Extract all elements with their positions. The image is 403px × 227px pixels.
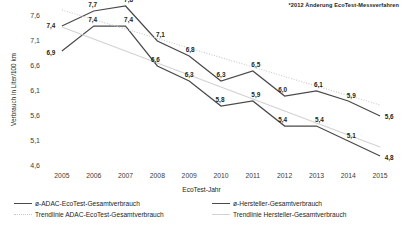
data-label: 5,6	[385, 113, 394, 120]
data-label: 7,1	[156, 31, 165, 38]
chart-legend: ø-ADAC-EcoTest-Gesamtverbrauchø-Herstell…	[0, 198, 403, 226]
chart-container: *2012 Änderung EcoTest-Messverfahren Ver…	[0, 0, 403, 227]
legend-swatch-icon	[14, 203, 32, 204]
data-label: 6,1	[314, 81, 323, 88]
plot-lines	[0, 0, 403, 227]
data-label: 7,7	[88, 1, 97, 8]
data-label: 6,3	[217, 71, 226, 78]
data-label: 5,4	[278, 116, 287, 123]
legend-item-0[interactable]: ø-ADAC-EcoTest-Gesamtverbrauch	[14, 200, 140, 207]
legend-label: Trendlinie Hersteller-Gesamtverbrauch	[233, 211, 346, 218]
series-line-3	[62, 27, 380, 147]
series-line-2	[62, 10, 380, 105]
data-label: 6,6	[151, 56, 160, 63]
legend-swatch-icon	[212, 203, 230, 204]
legend-swatch-icon	[14, 214, 32, 215]
legend-label: ø-ADAC-EcoTest-Gesamtverbrauch	[35, 200, 140, 207]
data-label: 6,9	[46, 49, 55, 56]
data-label: 5,4	[315, 116, 324, 123]
legend-item-1[interactable]: ø-Hersteller-Gesamtverbrauch	[212, 200, 322, 207]
data-label: 7,8	[124, 0, 133, 3]
data-label: 5,1	[347, 132, 356, 139]
data-label: 6,8	[186, 46, 195, 53]
data-label: 7,4	[88, 16, 97, 23]
data-label: 7,4	[124, 16, 133, 23]
data-label: 6,5	[251, 61, 260, 68]
legend-swatch-icon	[212, 214, 230, 215]
legend-item-3[interactable]: Trendlinie Hersteller-Gesamtverbrauch	[212, 211, 346, 218]
data-label: 6,0	[278, 86, 287, 93]
data-label: 7,4	[46, 22, 55, 29]
legend-label: Trendlinie ADAC-EcoTest-Gesamtverbrauch	[35, 211, 164, 218]
data-label: 5,8	[216, 96, 225, 103]
data-label: 6,3	[185, 71, 194, 78]
legend-item-2[interactable]: Trendlinie ADAC-EcoTest-Gesamtverbrauch	[14, 211, 164, 218]
data-label: 4,8	[385, 154, 394, 161]
data-label: 5,9	[347, 92, 356, 99]
legend-label: ø-Hersteller-Gesamtverbrauch	[233, 200, 322, 207]
data-label: 5,9	[251, 91, 260, 98]
